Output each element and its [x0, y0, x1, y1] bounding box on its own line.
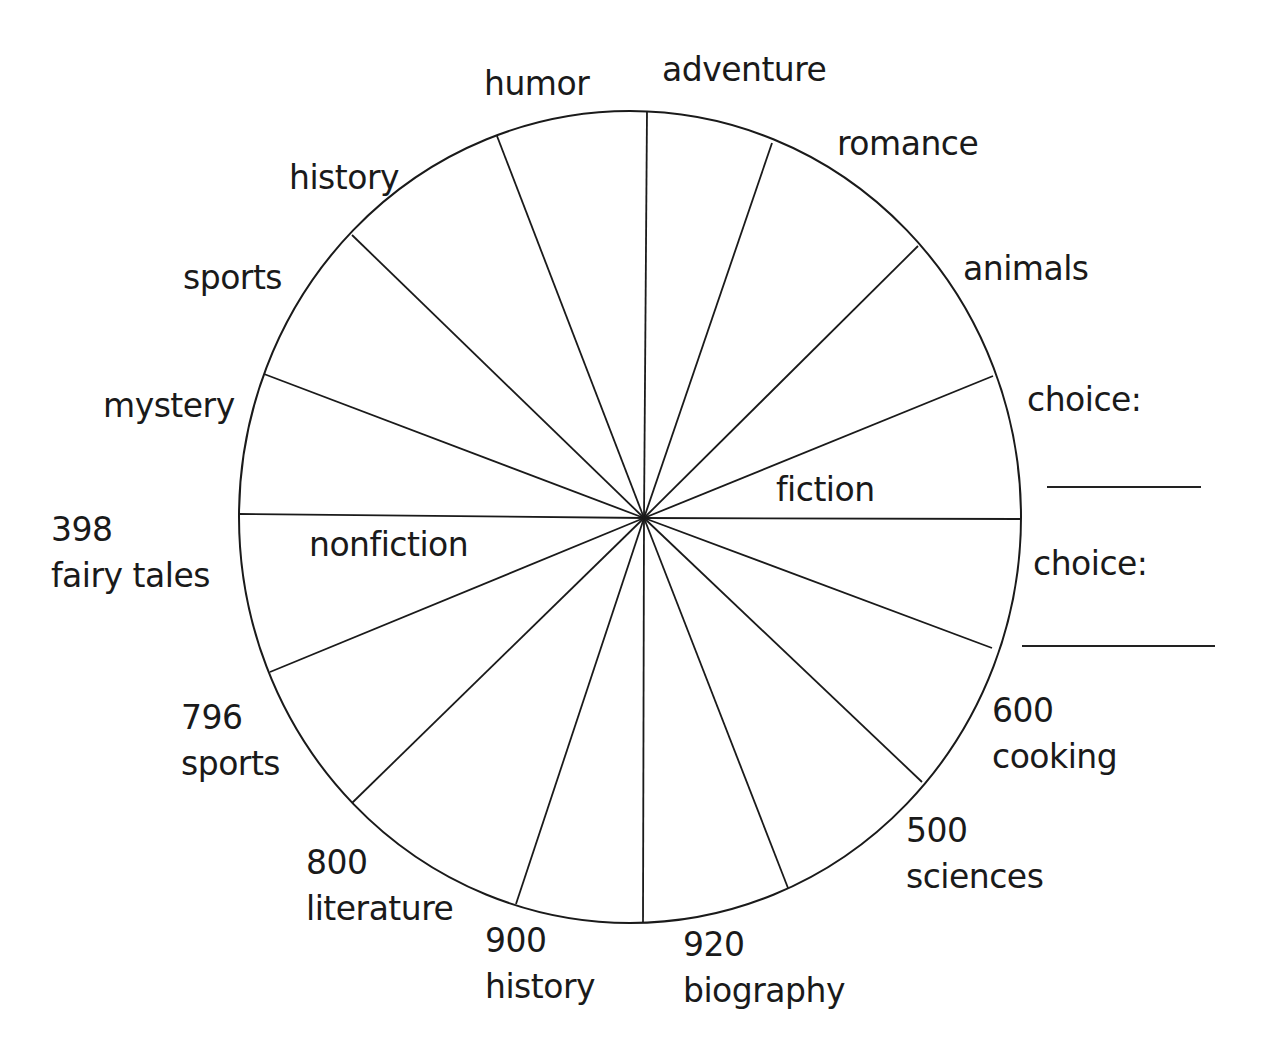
genre-label-choice-2: choice: [1033, 541, 1147, 587]
dewey-label-history: 900 history [485, 918, 595, 1010]
dewey-number: 920 [683, 922, 845, 968]
genre-label-history: history [289, 155, 399, 201]
wheel-spoke [497, 136, 644, 518]
dewey-number: 800 [306, 840, 453, 886]
dewey-name: history [485, 964, 595, 1010]
dewey-number: 600 [992, 688, 1117, 734]
dewey-name: sciences [906, 854, 1043, 900]
choice-2-blank-line[interactable] [1022, 645, 1215, 647]
wheel-spoke [644, 111, 647, 518]
dewey-label-cooking: 600 cooking [992, 688, 1117, 780]
dewey-name: literature [306, 886, 453, 932]
wheel-spokes [239, 111, 1020, 923]
genre-label-choice-1: choice: [1027, 377, 1141, 423]
wheel-spoke [516, 518, 644, 904]
genre-label-mystery: mystery [103, 383, 235, 429]
genre-label-romance: romance [837, 121, 978, 167]
choice-1-blank-line[interactable] [1047, 486, 1201, 488]
dewey-number: 796 [181, 695, 280, 741]
section-label-fiction: fiction [776, 467, 875, 513]
wheel-spoke [264, 374, 644, 518]
dewey-name: fairy tales [51, 553, 210, 599]
section-label-nonfiction: nonfiction [309, 522, 468, 568]
dewey-name: cooking [992, 734, 1117, 780]
wheel-spoke [644, 518, 992, 648]
dewey-number: 398 [51, 507, 210, 553]
wheel-spoke [644, 518, 788, 888]
genre-label-humor: humor [484, 61, 589, 107]
wheel-spoke [643, 518, 644, 923]
wheel-spoke [644, 143, 772, 518]
dewey-label-biography: 920 biography [683, 922, 845, 1014]
dewey-label-sciences: 500 sciences [906, 808, 1043, 900]
genre-label-animals: animals [963, 246, 1089, 292]
dewey-number: 500 [906, 808, 1043, 854]
dewey-name: sports [181, 741, 280, 787]
dewey-label-literature: 800 literature [306, 840, 453, 932]
dewey-label-fairy-tales: 398 fairy tales [51, 507, 210, 599]
wheel-spoke [239, 514, 644, 518]
dewey-name: biography [683, 968, 845, 1014]
genre-label-adventure: adventure [662, 47, 826, 93]
wheel-spoke [644, 518, 922, 782]
dewey-label-sports: 796 sports [181, 695, 280, 787]
dewey-number: 900 [485, 918, 595, 964]
wheel-spoke [644, 518, 1020, 519]
wheel-spoke [352, 235, 644, 518]
genre-label-sports: sports [183, 255, 282, 301]
